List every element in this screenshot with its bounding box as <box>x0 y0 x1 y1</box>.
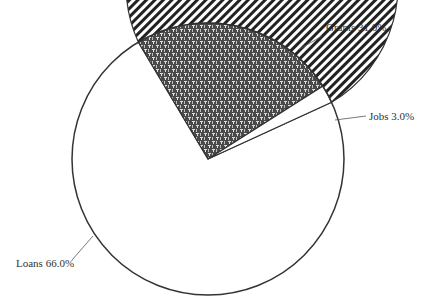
leader-line-jobs <box>335 116 366 120</box>
label-jobs: Jobs 3.0% <box>369 110 414 122</box>
label-loans: Loans 66.0% <box>16 257 74 269</box>
leader-line-loans <box>72 236 93 260</box>
label-grants: Grants 31.0% <box>326 21 387 33</box>
